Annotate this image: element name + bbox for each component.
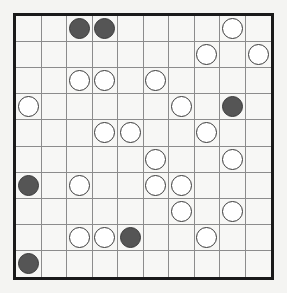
grid-cell-r5-c9[interactable] [246,147,272,173]
grid-cell-r7-c3[interactable] [93,199,119,225]
grid-cell-r6-c2[interactable] [67,173,93,199]
grid-cell-r2-c8[interactable] [220,68,246,94]
grid-cell-r5-c6[interactable] [169,147,195,173]
grid-cell-r2-c0[interactable] [16,68,42,94]
grid-cell-r6-c8[interactable] [220,173,246,199]
grid-cell-r9-c1[interactable] [42,251,68,277]
grid-cell-r0-c7[interactable] [195,16,221,42]
grid-cell-r8-c7[interactable] [195,225,221,251]
grid-cell-r0-c4[interactable] [118,16,144,42]
grid-cell-r4-c1[interactable] [42,120,68,146]
grid-cell-r6-c0[interactable] [16,173,42,199]
grid-cell-r2-c2[interactable] [67,68,93,94]
grid-cell-r0-c5[interactable] [144,16,170,42]
grid-cell-r2-c3[interactable] [93,68,119,94]
grid-cell-r1-c3[interactable] [93,42,119,68]
grid-cell-r4-c0[interactable] [16,120,42,146]
grid-cell-r4-c8[interactable] [220,120,246,146]
grid-cell-r6-c4[interactable] [118,173,144,199]
grid-cell-r6-c5[interactable] [144,173,170,199]
grid-cell-r1-c5[interactable] [144,42,170,68]
grid-cell-r2-c6[interactable] [169,68,195,94]
grid-cell-r5-c1[interactable] [42,147,68,173]
grid-cell-r3-c7[interactable] [195,94,221,120]
grid-cell-r7-c1[interactable] [42,199,68,225]
grid-cell-r8-c2[interactable] [67,225,93,251]
grid-cell-r7-c8[interactable] [220,199,246,225]
grid-cell-r4-c4[interactable] [118,120,144,146]
grid-cell-r8-c9[interactable] [246,225,272,251]
grid-cell-r3-c1[interactable] [42,94,68,120]
grid-cell-r5-c3[interactable] [93,147,119,173]
grid-cell-r1-c7[interactable] [195,42,221,68]
grid-cell-r9-c2[interactable] [67,251,93,277]
grid-cell-r1-c1[interactable] [42,42,68,68]
grid-cell-r2-c4[interactable] [118,68,144,94]
grid-cell-r3-c6[interactable] [169,94,195,120]
grid-cell-r8-c4[interactable] [118,225,144,251]
grid-cell-r3-c3[interactable] [93,94,119,120]
grid-cell-r4-c2[interactable] [67,120,93,146]
grid-cell-r6-c3[interactable] [93,173,119,199]
grid-cell-r2-c5[interactable] [144,68,170,94]
grid-cell-r0-c0[interactable] [16,16,42,42]
grid-cell-r1-c9[interactable] [246,42,272,68]
grid-cell-r9-c6[interactable] [169,251,195,277]
grid-cell-r5-c7[interactable] [195,147,221,173]
grid-cell-r0-c8[interactable] [220,16,246,42]
grid-cell-r0-c1[interactable] [42,16,68,42]
grid-cell-r1-c6[interactable] [169,42,195,68]
grid-cell-r2-c7[interactable] [195,68,221,94]
grid-cell-r9-c5[interactable] [144,251,170,277]
grid-cell-r8-c3[interactable] [93,225,119,251]
grid-cell-r9-c3[interactable] [93,251,119,277]
grid-cell-r8-c5[interactable] [144,225,170,251]
grid-cell-r4-c3[interactable] [93,120,119,146]
grid-cell-r4-c7[interactable] [195,120,221,146]
grid-cell-r1-c8[interactable] [220,42,246,68]
grid-cell-r3-c0[interactable] [16,94,42,120]
grid-cell-r0-c2[interactable] [67,16,93,42]
grid-cell-r8-c8[interactable] [220,225,246,251]
grid-cell-r4-c6[interactable] [169,120,195,146]
grid-cell-r6-c9[interactable] [246,173,272,199]
grid-cell-r7-c4[interactable] [118,199,144,225]
grid-cell-r0-c6[interactable] [169,16,195,42]
grid-cell-r6-c1[interactable] [42,173,68,199]
grid-cell-r7-c5[interactable] [144,199,170,225]
grid-cell-r5-c5[interactable] [144,147,170,173]
grid-cell-r3-c4[interactable] [118,94,144,120]
grid-cell-r3-c5[interactable] [144,94,170,120]
grid-cell-r6-c6[interactable] [169,173,195,199]
grid-cell-r9-c9[interactable] [246,251,272,277]
grid-cell-r7-c9[interactable] [246,199,272,225]
grid-cell-r3-c9[interactable] [246,94,272,120]
grid-cell-r3-c8[interactable] [220,94,246,120]
grid-cell-r2-c9[interactable] [246,68,272,94]
grid-cell-r2-c1[interactable] [42,68,68,94]
grid-cell-r7-c2[interactable] [67,199,93,225]
grid-cell-r9-c0[interactable] [16,251,42,277]
grid-cell-r6-c7[interactable] [195,173,221,199]
grid-cell-r1-c2[interactable] [67,42,93,68]
grid-cell-r0-c9[interactable] [246,16,272,42]
grid-cell-r5-c8[interactable] [220,147,246,173]
grid-cell-r5-c0[interactable] [16,147,42,173]
grid-cell-r7-c6[interactable] [169,199,195,225]
grid-cell-r8-c0[interactable] [16,225,42,251]
grid-cell-r8-c1[interactable] [42,225,68,251]
grid-cell-r5-c2[interactable] [67,147,93,173]
grid-cell-r0-c3[interactable] [93,16,119,42]
grid-cell-r7-c0[interactable] [16,199,42,225]
grid-cell-r3-c2[interactable] [67,94,93,120]
grid-cell-r9-c7[interactable] [195,251,221,277]
grid-cell-r5-c4[interactable] [118,147,144,173]
grid-cell-r8-c6[interactable] [169,225,195,251]
grid-cell-r7-c7[interactable] [195,199,221,225]
grid-cell-r9-c4[interactable] [118,251,144,277]
grid-cell-r4-c9[interactable] [246,120,272,146]
grid-cell-r1-c0[interactable] [16,42,42,68]
grid-cell-r4-c5[interactable] [144,120,170,146]
grid-cell-r9-c8[interactable] [220,251,246,277]
grid-cell-r1-c4[interactable] [118,42,144,68]
